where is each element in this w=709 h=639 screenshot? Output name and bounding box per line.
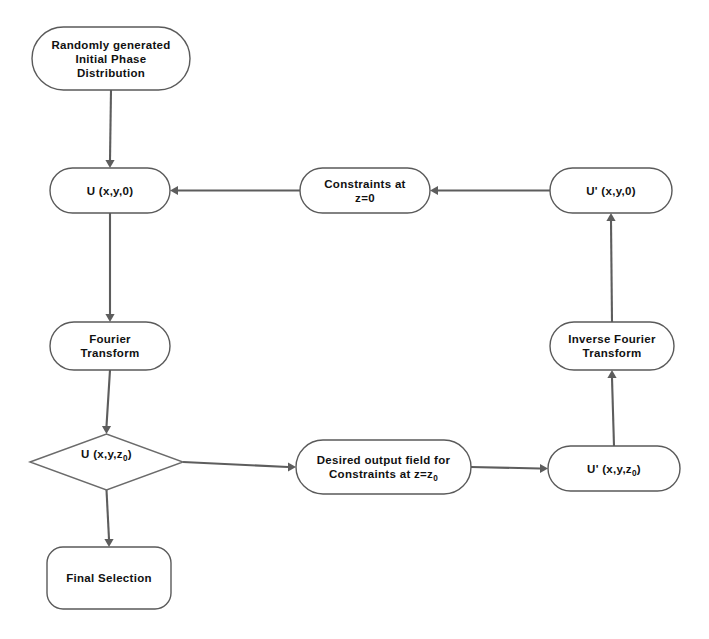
node-label: U' (x,y,0) [586,185,636,197]
edge-edge-constraints-to-u [170,186,300,195]
node-constraints-z0[interactable]: Constraints atz=0 [300,168,430,213]
node-fourier-transform[interactable]: FourierTransform [50,322,170,370]
edge-edge-uprime-0-to-constraints [430,186,550,195]
flowchart-canvas: Randomly generatedInitial PhaseDistribut… [0,0,709,639]
edge-line [183,462,288,467]
edge-line [471,467,540,469]
flowchart-diagram: Randomly generatedInitial PhaseDistribut… [0,0,709,639]
node-u-xy0[interactable]: U (x,y,0) [50,168,170,213]
edge-edge-uprime-z0-to-inverse [607,370,616,446]
node-shape-stadium [550,322,674,370]
edge-arrowhead [540,464,548,473]
node-label: Final Selection [66,572,152,584]
edge-arrowhead [288,462,296,471]
node-label: Desired output field forConstraints at z… [317,454,451,483]
node-shape-stadium [296,440,471,494]
edge-line [107,370,111,426]
edge-arrowhead [170,186,178,195]
node-shape-stadium [300,168,430,213]
edge-edge-fourier-to-decision [102,370,111,434]
edge-edge-desired-to-uprime-z0 [471,464,548,473]
edge-arrowhead [105,314,114,322]
node-label: U (x,y,0) [87,185,134,197]
node-inverse-fourier-transform[interactable]: Inverse FourierTransform [550,322,674,370]
node-shape-diamond [30,434,183,490]
edge-line [611,221,612,322]
node-shape-stadium [50,322,170,370]
edge-arrowhead [430,186,438,195]
edge-edge-u-to-fourier [105,213,114,322]
node-initial-phase[interactable]: Randomly generatedInitial PhaseDistribut… [32,27,190,90]
edge-arrowhead [607,370,616,378]
node-final-selection[interactable]: Final Selection [47,547,171,609]
edge-arrowhead [606,213,615,221]
node-desired-output-field[interactable]: Desired output field forConstraints at z… [296,440,471,494]
node-u-prime-xyz0[interactable]: U' (x,y,z0) [548,446,680,491]
edge-arrowhead [102,426,111,434]
edge-edge-initial-to-u [105,90,114,168]
node-u-prime-xy0[interactable]: U' (x,y,0) [550,168,672,213]
edge-line [110,90,111,160]
edge-line [612,378,614,446]
edge-arrowhead [104,539,113,547]
edge-arrowhead [105,160,114,168]
node-u-xyz0-decision[interactable]: U (x,y,z0) [30,434,183,490]
edge-edge-decision-to-final [104,490,113,547]
edge-edge-inverse-to-uprime-0 [606,213,615,322]
edge-line [107,490,110,539]
node-layer: Randomly generatedInitial PhaseDistribut… [30,27,680,609]
edge-edge-decision-to-desired [183,462,296,472]
